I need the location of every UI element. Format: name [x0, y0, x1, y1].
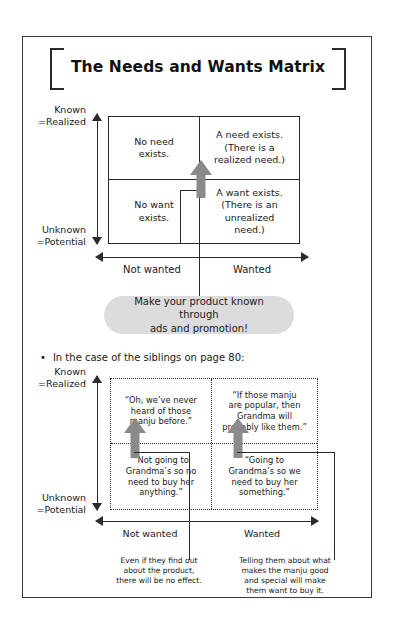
section-bullet: • In the case of the siblings on page 80… — [40, 352, 244, 363]
top-matrix-y-top-label: Known =Realized — [24, 104, 86, 127]
top-matrix-x-left-label: Not wanted — [106, 264, 198, 275]
bubble-connector-line — [199, 244, 200, 300]
top-gray-up-arrow-icon — [190, 160, 212, 198]
left-note-connector-vertical — [189, 452, 190, 560]
top-matrix-y-axis — [92, 114, 103, 244]
axis-arrow-up-icon — [92, 113, 102, 121]
bottom-matrix-x-axis — [96, 516, 318, 527]
axis-arrow-right-icon — [301, 252, 309, 262]
right-note-connector-horizontal — [237, 452, 335, 453]
page-title: The Needs and Wants Matrix — [50, 58, 346, 76]
bottom-matrix-y-bottom-label: Unknown =Potential — [24, 492, 86, 515]
footer-note-left: Even if they find out about the product,… — [104, 556, 214, 586]
bottom-matrix-x-right-label: Wanted — [216, 528, 308, 539]
top-connector-vertical-left — [180, 190, 181, 244]
top-matrix-x-right-label: Wanted — [206, 264, 298, 275]
title-block: The Needs and Wants Matrix — [50, 48, 346, 90]
axis-arrow-up-icon — [92, 375, 102, 383]
top-matrix-cell-want-exists: A want exists. (There is an unrealized n… — [200, 180, 299, 243]
top-matrix-x-axis — [96, 252, 308, 263]
top-matrix-cell-no-need: No need exists. — [109, 117, 199, 179]
bottom-matrix-y-top-label: Known =Realized — [24, 366, 86, 389]
bottom-matrix-y-axis — [92, 376, 103, 510]
footer-note-right: Telling them about what makes the manju … — [226, 556, 344, 596]
callout-bubble: Make your product known through ads and … — [104, 296, 294, 334]
section-bullet-text: In the case of the siblings on page 80: — [53, 352, 244, 363]
bottom-matrix-x-left-label: Not wanted — [104, 528, 196, 539]
axis-arrow-left-icon — [95, 252, 103, 262]
left-note-connector-horizontal — [134, 452, 190, 453]
right-note-connector-vertical — [334, 452, 335, 560]
axis-arrow-down-icon — [92, 237, 102, 245]
axis-arrow-right-icon — [311, 516, 319, 526]
top-matrix-y-bottom-label: Unknown =Potential — [24, 224, 86, 247]
top-matrix-cell-need-exists: A need exists. (There is a realized need… — [200, 117, 299, 179]
bullet-dot-icon: • — [40, 353, 46, 363]
axis-arrow-down-icon — [92, 503, 102, 511]
axis-arrow-left-icon — [95, 516, 103, 526]
